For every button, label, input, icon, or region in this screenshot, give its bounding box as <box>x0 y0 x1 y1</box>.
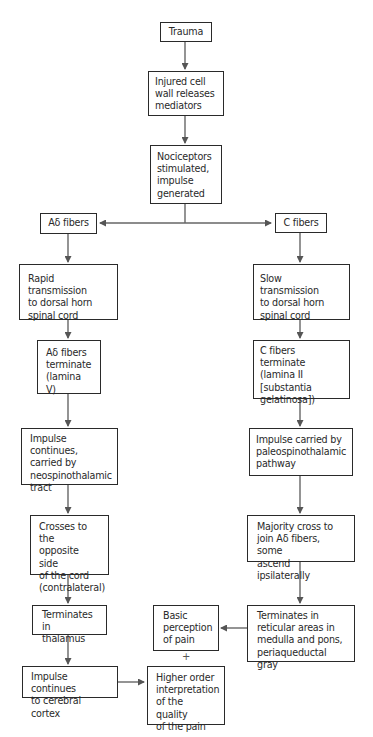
node-a-delta-terminate: Aδ fibers terminate (lamina V) <box>37 340 101 394</box>
plus-sign: + <box>182 651 190 662</box>
node-trauma: Trauma <box>160 22 212 42</box>
node-terminates-thalamus: Terminates in thalamus <box>32 605 107 635</box>
node-majority-cross: Majority cross to join Aδ fibers, some a… <box>247 515 355 562</box>
node-injured-cell: Injured cell wall releases mediators <box>148 71 224 116</box>
node-basic-perception: Basic perception of pain <box>153 605 219 651</box>
node-c-fibers: C fibers <box>275 213 327 233</box>
node-a-delta-fibers: Aδ fibers <box>40 213 97 234</box>
node-c-fibers-terminate: C fibers terminate (lamina II [substanti… <box>253 340 350 399</box>
node-higher-order-interpretation: Higher order interpretation of the quali… <box>147 666 225 725</box>
node-slow-transmission: Slow transmission to dorsal horn spinal … <box>253 264 350 320</box>
node-nociceptors: Nociceptors stimulated, impulse generate… <box>150 145 222 204</box>
node-neospinothalamic: Impulse continues, carried by neospinoth… <box>21 428 118 485</box>
node-paleospinothalamic: Impulse carried by paleospinothalamic pa… <box>249 428 353 476</box>
node-cerebral-cortex: Impulse continues to cerebral cortex <box>22 666 118 698</box>
node-rapid-transmission: Rapid transmission to dorsal horn spinal… <box>19 264 118 320</box>
node-crosses-contralateral: Crosses to the opposite side of the cord… <box>30 515 109 575</box>
node-terminates-reticular: Terminates in reticular areas in medulla… <box>247 605 355 662</box>
